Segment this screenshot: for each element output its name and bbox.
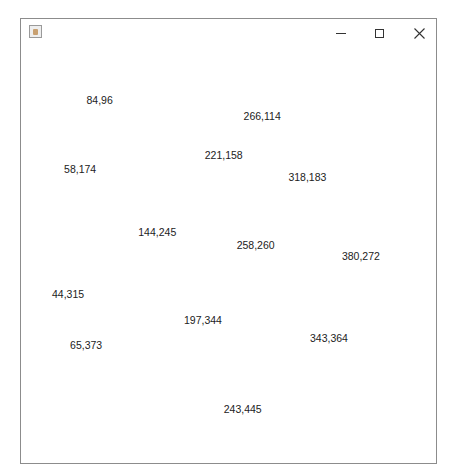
maximize-icon: [375, 29, 384, 38]
point-label: 318,183: [288, 172, 326, 183]
close-button[interactable]: [404, 23, 434, 43]
close-icon: [414, 28, 425, 39]
maximize-button[interactable]: [364, 23, 394, 43]
point-label: 197,344: [184, 315, 222, 326]
point-label: 266,114: [244, 111, 281, 122]
app-window: 84,96266,114221,15858,174318,183144,2452…: [20, 18, 437, 464]
title-bar[interactable]: [21, 19, 436, 49]
point-label: 221,158: [205, 150, 243, 161]
point-label: 44,315: [52, 289, 84, 300]
minimize-button[interactable]: [326, 23, 356, 43]
point-label: 58,174: [64, 164, 96, 175]
drawing-canvas[interactable]: 84,96266,114221,15858,174318,183144,2452…: [21, 49, 436, 463]
point-label: 144,245: [138, 227, 176, 238]
minimize-icon: [336, 33, 346, 34]
point-label: 258,260: [237, 240, 275, 251]
point-label: 343,364: [310, 333, 348, 344]
java-app-icon[interactable]: [29, 25, 42, 38]
point-label: 65,373: [70, 340, 102, 351]
point-label: 243,445: [224, 404, 262, 415]
point-label: 84,96: [86, 95, 112, 106]
point-label: 380,272: [342, 251, 380, 262]
